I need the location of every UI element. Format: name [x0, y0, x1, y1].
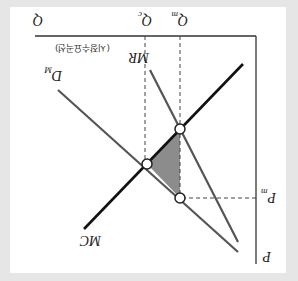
monopoly-price-point	[175, 193, 185, 203]
qm-label: Qm	[171, 10, 188, 28]
price-axis-label: P	[262, 249, 272, 264]
competitive-equilibrium-point	[142, 159, 152, 169]
demand-note: (시장수요곡선)	[55, 43, 110, 53]
mr-label: MR	[128, 50, 150, 65]
demand-label: DM	[44, 65, 63, 83]
mc-label: MC	[79, 233, 102, 248]
quantity-axis-label: Q	[33, 13, 43, 28]
qc-label: Qc	[138, 10, 152, 28]
pm-label: Pm	[260, 187, 277, 205]
monopoly-diagram: P Pm Q Qc Qm MC MR DM (시장수요곡선)	[0, 0, 298, 281]
mc-mr-intersection-point	[175, 124, 185, 134]
